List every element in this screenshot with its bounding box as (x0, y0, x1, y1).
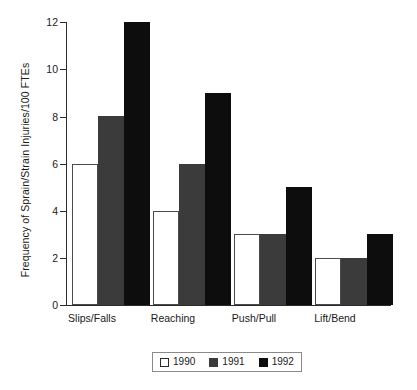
bar-group-slips-falls (72, 22, 150, 305)
legend-swatch-1992-icon (259, 358, 268, 367)
legend-item-1991[interactable]: 1991 (209, 357, 244, 367)
bar-1990-lift-bend[interactable] (315, 258, 341, 305)
bar-group-reaching (153, 22, 231, 305)
bar-1990-slips-falls[interactable] (72, 164, 98, 306)
bar-1991-slips-falls[interactable] (98, 116, 124, 305)
bar-1992-push-pull[interactable] (286, 187, 312, 305)
y-tick-label-10: 10 (18, 64, 58, 74)
y-tick-label-0: 0 (18, 300, 58, 310)
chart-legend: 1990 1991 1992 (152, 352, 302, 372)
y-tick-label-8: 8 (18, 112, 58, 122)
bar-1991-push-pull[interactable] (260, 234, 286, 305)
bar-1992-reaching[interactable] (205, 93, 231, 305)
bar-1992-lift-bend[interactable] (367, 234, 393, 305)
legend-label-1990: 1990 (173, 357, 195, 367)
plot-area (66, 22, 390, 305)
bar-1990-reaching[interactable] (153, 211, 179, 305)
legend-swatch-1990-icon (160, 358, 169, 367)
bar-group-lift-bend (315, 22, 393, 305)
legend-label-1992: 1992 (272, 357, 294, 367)
bar-group-push-pull (234, 22, 312, 305)
bar-1992-slips-falls[interactable] (124, 22, 150, 305)
y-tick-0 (60, 305, 67, 306)
bar-1991-reaching[interactable] (179, 164, 205, 306)
bar-1990-push-pull[interactable] (234, 234, 260, 305)
legend-swatch-1991-icon (209, 358, 218, 367)
legend-item-1990[interactable]: 1990 (160, 357, 195, 367)
legend-item-1992[interactable]: 1992 (259, 357, 294, 367)
bar-chart: Frequency of Sprain/Strain Injuries/100 … (0, 0, 417, 390)
bar-1991-lift-bend[interactable] (341, 258, 367, 305)
x-axis-line (66, 305, 391, 306)
y-tick-label-6: 6 (18, 159, 58, 169)
y-tick-label-2: 2 (18, 253, 58, 263)
x-category-label-lift-bend: Lift/Bend (275, 312, 395, 324)
y-tick-label-4: 4 (18, 206, 58, 216)
y-tick-label-12: 12 (18, 17, 58, 27)
legend-label-1991: 1991 (222, 357, 244, 367)
